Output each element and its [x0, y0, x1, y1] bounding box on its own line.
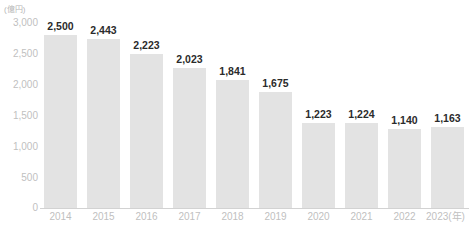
bar-value-label: 1,140 — [382, 115, 427, 126]
bar-value-label: 1,224 — [339, 109, 384, 120]
x-axis-tick-label-last: 2023(年) — [422, 211, 469, 223]
y-axis-tick-label: 500 — [0, 173, 38, 183]
y-axis-tick-label: 2,500 — [0, 49, 38, 59]
bar-2018[interactable] — [216, 80, 249, 208]
x-axis-tick-label: 2016 — [123, 211, 170, 223]
x-axis-tick-label: 2020 — [295, 211, 342, 223]
y-axis-unit-label: (億円) — [4, 3, 25, 14]
x-axis-tick-label: 2017 — [166, 211, 213, 223]
x-axis-tick-label: 2019 — [252, 211, 299, 223]
bar-value-label: 2,223 — [124, 40, 169, 51]
bar-2019[interactable] — [259, 92, 292, 208]
y-axis-tick-label: 2,000 — [0, 80, 38, 90]
bar-2017[interactable] — [173, 68, 206, 208]
y-axis-tick-label: 1,500 — [0, 111, 38, 121]
x-axis-tick-label: 2022 — [381, 211, 428, 223]
x-axis-line — [40, 208, 469, 209]
bar-value-label: 1,675 — [253, 78, 298, 89]
bar-chart: (億円) 3,000 2,500 2,000 1,500 1,000 500 0… — [0, 0, 473, 231]
x-axis-tick-label: 2015 — [80, 211, 127, 223]
bar-2023[interactable] — [431, 127, 464, 208]
bar-2016[interactable] — [130, 54, 163, 208]
bar-2021[interactable] — [345, 123, 378, 208]
bar-value-label: 2,023 — [167, 54, 212, 65]
plot-area: 2,500 2,443 2,223 2,023 1,841 1,675 1,22… — [44, 0, 469, 208]
bar-2014[interactable] — [44, 35, 77, 208]
bar-value-label: 1,223 — [296, 109, 341, 120]
x-axis-tick-label: 2014 — [37, 211, 84, 223]
bar-2020[interactable] — [302, 123, 335, 208]
bar-2015[interactable] — [87, 39, 120, 208]
bar-2022[interactable] — [388, 129, 421, 208]
bar-value-label: 1,163 — [425, 113, 470, 124]
y-axis-tick-label: 1,000 — [0, 142, 38, 152]
bar-value-label: 2,500 — [38, 21, 83, 32]
x-axis-tick-label: 2021 — [338, 211, 385, 223]
y-axis-tick-label: 3,000 — [0, 18, 38, 28]
y-axis-tick-label: 0 — [0, 203, 38, 213]
bar-value-label: 2,443 — [81, 25, 126, 36]
bar-value-label: 1,841 — [210, 66, 255, 77]
x-axis-tick-label: 2018 — [209, 211, 256, 223]
